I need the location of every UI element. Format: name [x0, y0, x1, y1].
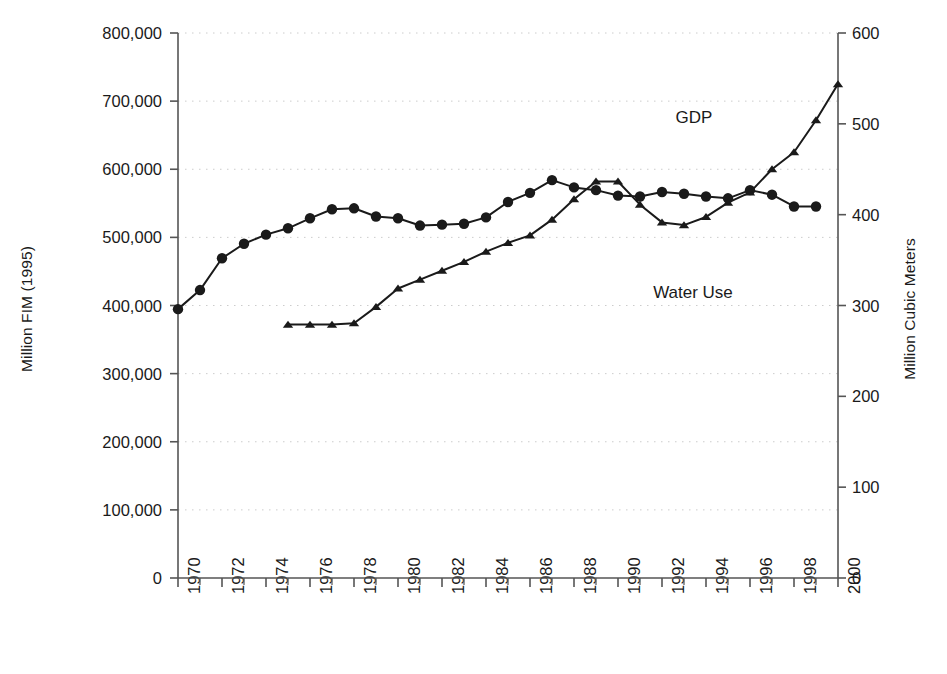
data-point: [195, 285, 205, 295]
data-point: [811, 116, 821, 123]
data-point: [283, 223, 293, 233]
data-point: [217, 253, 227, 263]
data-point: [239, 239, 249, 249]
series-line-gdp: [288, 84, 838, 324]
data-point: [305, 213, 315, 223]
data-point: [415, 220, 425, 230]
data-point: [371, 211, 381, 221]
data-point: [569, 182, 579, 192]
series-annotation-water-use: Water Use: [653, 283, 733, 303]
data-point: [679, 189, 689, 199]
data-point: [591, 185, 601, 195]
data-point: [701, 191, 711, 201]
data-point: [459, 219, 469, 229]
data-point: [393, 213, 403, 223]
data-point: [459, 258, 469, 265]
data-point: [261, 229, 271, 239]
gridlines: [178, 33, 838, 510]
data-point: [657, 187, 667, 197]
data-point: [437, 219, 447, 229]
plot-canvas: [0, 0, 947, 674]
data-point: [767, 189, 777, 199]
axis-ticks: [170, 33, 846, 587]
data-point: [327, 204, 337, 214]
chart-figure: Million FIM (1995) Million Cubic Meters …: [0, 0, 947, 674]
data-point: [503, 197, 513, 207]
data-point: [811, 201, 821, 211]
data-point: [833, 80, 843, 87]
data-point: [789, 148, 799, 155]
data-point: [525, 188, 535, 198]
data-point: [789, 201, 799, 211]
data-point: [349, 203, 359, 213]
data-point: [547, 175, 557, 185]
data-point: [481, 212, 491, 222]
data-point: [173, 304, 183, 314]
data-series-layer: [173, 80, 843, 327]
data-point: [613, 190, 623, 200]
series-annotation-gdp: GDP: [676, 108, 713, 128]
